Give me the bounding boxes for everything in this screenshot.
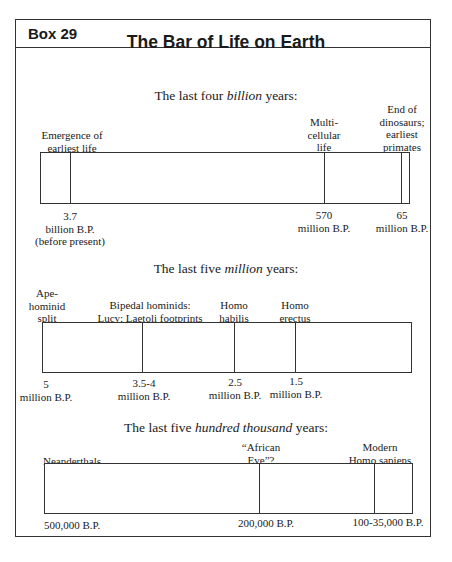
- subtitle-emphasis: million: [224, 261, 262, 276]
- section-1-subtitle: The last four billion years:: [0, 88, 452, 104]
- date-label-200000: 200,000 B.P.: [226, 517, 306, 530]
- subtitle-emphasis: billion: [227, 88, 262, 103]
- date-label-5-million: 5 million B.P.: [8, 378, 84, 403]
- event-label-homo-habilis: Homo habilis: [209, 299, 259, 324]
- event-label-homo-erectus: Homo erectus: [270, 299, 320, 324]
- date-label-500000: 500,000 B.P.: [44, 519, 134, 532]
- subtitle-emphasis: hundred thousand: [195, 420, 292, 435]
- subtitle-text: years:: [292, 420, 328, 435]
- marker-570-million: [324, 153, 325, 203]
- diagram-title: The Bar of Life on Earth: [0, 32, 452, 53]
- event-label-bipedal-hominids: Bipedal hominids: Lucy; Laetoli footprin…: [85, 299, 215, 324]
- event-label-ape-hominid-split: Ape- hominid split: [22, 287, 72, 325]
- date-label-3-5-4-million: 3.5-4 million B.P.: [104, 377, 184, 402]
- marker-3-7-billion: [70, 153, 71, 203]
- marker-65-million: [401, 153, 402, 203]
- subtitle-text: The last four: [154, 88, 226, 103]
- date-label-570-million: 570 million B.P.: [284, 209, 364, 234]
- date-label-3-7-billion: 3.7 billion B.P. (before present): [20, 210, 120, 248]
- subtitle-text: years:: [262, 88, 298, 103]
- subtitle-text: The last five: [154, 261, 225, 276]
- marker-3-5-4-million: [142, 323, 143, 372]
- date-label-1-5-million: 1.5 million B.P.: [256, 375, 336, 400]
- timeline-bar-million: [42, 322, 412, 373]
- marker-200000: [259, 464, 260, 513]
- marker-100-35000: [374, 464, 375, 513]
- event-label-earliest-life: Emergence of earliest life: [22, 129, 122, 154]
- event-label-dinosaurs: End of dinosaurs; earliest primates: [372, 103, 432, 153]
- timeline-bar-billion: [40, 152, 410, 204]
- section-3-subtitle: The last five hundred thousand years:: [0, 420, 452, 436]
- marker-1-5-million: [295, 323, 296, 372]
- event-label-multicellular: Multi- cellular life: [294, 116, 354, 154]
- date-label-100-35000: 100-35,000 B.P.: [338, 516, 438, 529]
- subtitle-text: The last five: [124, 420, 195, 435]
- date-label-65-million: 65 million B.P.: [362, 209, 442, 234]
- timeline-bar-hundred-thousand: [44, 463, 413, 514]
- section-2-subtitle: The last five million years:: [0, 261, 452, 277]
- subtitle-text: years:: [263, 261, 299, 276]
- marker-2-5-million: [234, 323, 235, 372]
